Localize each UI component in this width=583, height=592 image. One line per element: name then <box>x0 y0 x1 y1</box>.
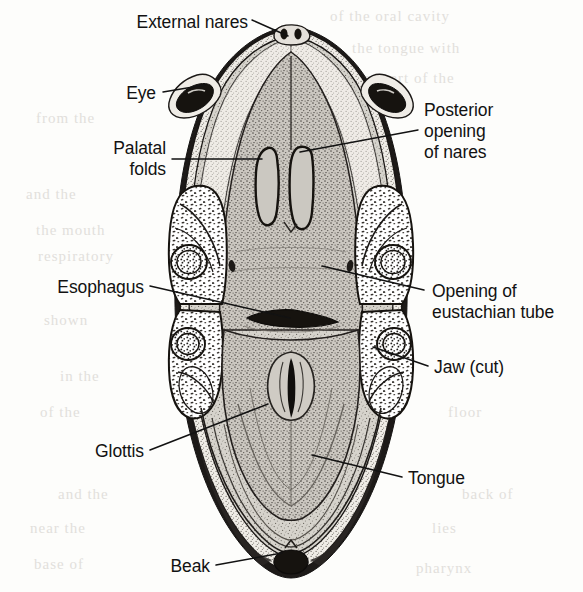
jaw-left-lower-outline <box>169 310 223 418</box>
label-beak: Beak <box>148 556 210 577</box>
jaw-right-lower-bone[interactable] <box>377 328 411 360</box>
palatal-fold-right[interactable] <box>290 147 314 229</box>
jaw-cut-right-lower[interactable] <box>359 310 413 418</box>
external-nares-group[interactable] <box>274 25 310 45</box>
label-eye: Eye <box>96 83 156 104</box>
label-external-nares: External nares <box>88 12 248 33</box>
nares-pad <box>274 25 310 45</box>
jaw-left-upper-bone[interactable] <box>171 245 207 279</box>
label-palatal-folds: Palatal folds <box>68 138 166 180</box>
jaw-left-upper-outline <box>169 186 227 304</box>
jaw-right-lower-outline <box>359 310 413 418</box>
label-esophagus: Esophagus <box>28 277 144 298</box>
label-jaw-cut: Jaw (cut) <box>434 357 544 378</box>
jaw-cut-right-upper[interactable] <box>355 186 413 304</box>
oral-cavity-figure: of the oral cavitythe tongue withupper p… <box>0 0 583 592</box>
jaw-right-upper-outline <box>355 186 413 304</box>
jaw-cut-left-lower[interactable] <box>169 310 223 418</box>
label-opening-of-eustachian-tube: Opening of eustachian tube <box>432 281 582 323</box>
label-posterior-opening-of-nares: Posterior opening of nares <box>424 100 574 163</box>
external-naris-right[interactable] <box>294 29 301 40</box>
jaw-left-lower-bone[interactable] <box>171 328 205 360</box>
jaw-cut-left-upper[interactable] <box>169 186 227 304</box>
glottis-group[interactable] <box>268 352 315 420</box>
label-glottis: Glottis <box>68 441 144 462</box>
label-tongue: Tongue <box>408 468 508 489</box>
jaw-right-upper-bone[interactable] <box>375 245 411 279</box>
